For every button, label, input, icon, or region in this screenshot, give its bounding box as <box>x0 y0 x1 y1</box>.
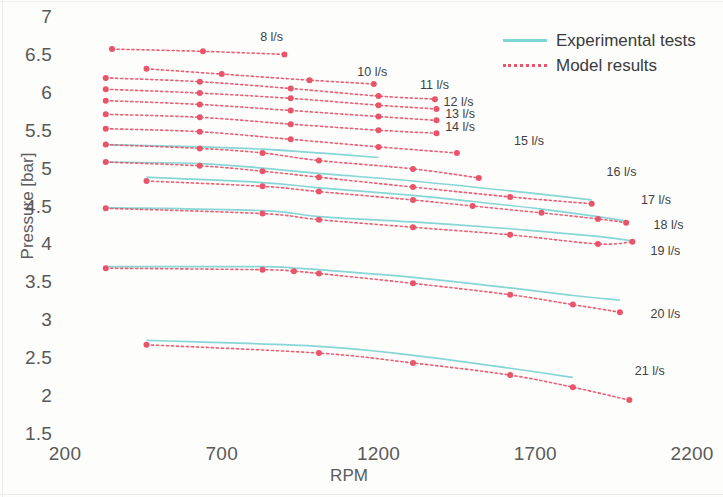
data-point-marker <box>507 232 513 238</box>
data-point-marker <box>288 136 294 142</box>
data-point-marker <box>476 175 482 181</box>
data-point-marker <box>434 117 440 123</box>
data-point-marker <box>103 205 109 211</box>
data-point-marker <box>570 384 576 390</box>
data-point-marker <box>507 292 513 298</box>
series-annotation: 15 l/s <box>514 134 544 148</box>
data-point-marker <box>307 77 313 83</box>
data-point-marker <box>376 93 382 99</box>
y-tick-label: 7 <box>6 6 52 28</box>
x-tick-label: 700 <box>182 443 262 465</box>
legend-label-model: Model results <box>556 56 657 76</box>
data-point-marker <box>410 166 416 172</box>
data-point-marker <box>454 150 460 156</box>
data-point-marker <box>316 189 322 195</box>
data-point-marker <box>410 360 416 366</box>
data-point-marker <box>376 144 382 150</box>
series-annotation: 20 l/s <box>650 307 680 321</box>
model-curve <box>147 181 627 223</box>
y-tick-label: 2 <box>6 385 52 407</box>
series-layer <box>103 46 636 403</box>
data-point-marker <box>109 46 115 52</box>
data-point-marker <box>316 217 322 223</box>
data-point-marker <box>623 220 629 226</box>
series-annotation: 10 l/s <box>357 65 387 79</box>
data-point-marker <box>410 184 416 190</box>
data-point-marker <box>103 111 109 117</box>
series-annotation: 17 l/s <box>641 193 671 207</box>
data-point-marker <box>434 106 440 112</box>
data-point-marker <box>539 210 545 216</box>
y-tick-label: 1.5 <box>6 423 52 445</box>
x-tick-label: 200 <box>25 443 105 465</box>
legend-label-experimental: Experimental tests <box>556 31 696 51</box>
data-point-marker <box>197 145 203 151</box>
chart-page: 76.565.554.543.532.521.5 200700120017002… <box>0 0 723 497</box>
data-point-marker <box>291 268 297 274</box>
data-point-marker <box>144 66 150 72</box>
data-point-marker <box>376 127 382 133</box>
data-point-marker <box>432 96 438 102</box>
data-point-marker <box>197 101 203 107</box>
data-point-marker <box>103 159 109 165</box>
data-point-marker <box>507 372 513 378</box>
series-annotation: 8 l/s <box>260 30 283 44</box>
series-annotation: 18 l/s <box>654 218 684 232</box>
data-point-marker <box>316 271 322 277</box>
data-point-marker <box>595 241 601 247</box>
experimental-curve <box>106 267 620 300</box>
data-point-marker <box>376 102 382 108</box>
data-point-marker <box>410 280 416 286</box>
data-point-marker <box>629 239 635 245</box>
data-point-marker <box>617 309 623 315</box>
y-tick-label: 3 <box>6 309 52 331</box>
data-point-marker <box>260 183 266 189</box>
y-tick-label: 2.5 <box>6 347 52 369</box>
model-curve <box>147 69 374 84</box>
model-curve <box>106 101 437 121</box>
data-point-marker <box>103 86 109 92</box>
data-point-marker <box>103 75 109 81</box>
data-point-marker <box>197 79 203 85</box>
data-point-marker <box>316 174 322 180</box>
data-point-marker <box>507 194 513 200</box>
data-point-marker <box>288 86 294 92</box>
data-point-marker <box>570 302 576 308</box>
data-point-marker <box>260 211 266 217</box>
y-axis-label: Pressure [bar] <box>18 121 38 291</box>
data-point-marker <box>144 342 150 348</box>
data-point-marker <box>200 48 206 54</box>
data-point-marker <box>260 168 266 174</box>
data-point-marker <box>410 197 416 203</box>
chart-legend: Experimental tests Model results <box>503 26 719 80</box>
series-annotation: 19 l/s <box>650 244 680 258</box>
data-point-marker <box>103 126 109 132</box>
series-annotation: 21 l/s <box>635 364 665 378</box>
data-point-marker <box>197 90 203 96</box>
series-annotation: 16 l/s <box>607 165 637 179</box>
data-point-marker <box>281 51 287 57</box>
data-point-marker <box>103 265 109 271</box>
x-tick-label: 2200 <box>652 443 723 465</box>
data-point-marker <box>316 158 322 164</box>
data-point-marker <box>626 397 632 403</box>
data-point-marker <box>470 203 476 209</box>
y-tick-label: 6 <box>6 82 52 104</box>
model-curve <box>112 49 284 54</box>
x-axis-label: RPM <box>289 466 409 486</box>
legend-item-experimental: Experimental tests <box>503 28 719 53</box>
experimental-curve <box>106 208 633 241</box>
data-point-marker <box>103 98 109 104</box>
model-curve <box>106 89 437 109</box>
experimental-curve <box>147 340 573 377</box>
series-annotation: 11 l/s <box>420 78 449 92</box>
legend-item-model: Model results <box>503 53 719 78</box>
y-tick-label: 6.5 <box>6 44 52 66</box>
data-point-marker <box>589 201 595 207</box>
legend-swatch-model <box>503 64 547 67</box>
x-tick-label: 1200 <box>339 443 419 465</box>
data-point-marker <box>595 216 601 222</box>
data-point-marker <box>434 130 440 136</box>
data-point-marker <box>197 114 203 120</box>
data-point-marker <box>316 350 322 356</box>
